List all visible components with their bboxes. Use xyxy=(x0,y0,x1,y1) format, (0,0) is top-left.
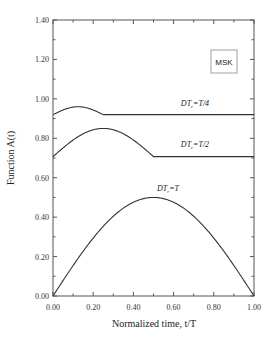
y-tick-label: 1.20 xyxy=(35,55,49,64)
annotation-t2: DTr=T/2 xyxy=(180,140,209,150)
x-tick-label: 1.00 xyxy=(247,303,261,312)
y-tick-label: 0.00 xyxy=(35,292,49,301)
x-tick-label: 0.20 xyxy=(86,303,100,312)
x-tick-label: 0.40 xyxy=(126,303,140,312)
y-tick-label: 0.80 xyxy=(35,134,49,143)
annotation-t4: DTr=T/4 xyxy=(180,99,209,109)
annotation-t: DTr=T xyxy=(156,184,180,194)
y-axis-label: Function A(t) xyxy=(5,131,17,185)
x-tick-label: 0.00 xyxy=(46,303,60,312)
curve-t2 xyxy=(53,128,254,156)
y-tick-label: 0.20 xyxy=(35,253,49,262)
y-tick-label: 1.40 xyxy=(35,16,49,25)
y-tick-label: 0.60 xyxy=(35,174,49,183)
x-tick-label: 0.80 xyxy=(207,303,221,312)
x-tick-label: 0.60 xyxy=(167,303,181,312)
y-tick-label: 0.40 xyxy=(35,213,49,222)
curve-t xyxy=(53,197,254,296)
x-axis-label: Normalized time, t/T xyxy=(112,318,196,329)
legend-msk-label: MSK xyxy=(215,58,233,67)
y-tick-label: 1.00 xyxy=(35,95,49,104)
chart: 0.000.200.400.600.801.000.000.200.400.60… xyxy=(0,0,273,348)
curve-t4 xyxy=(53,107,254,115)
